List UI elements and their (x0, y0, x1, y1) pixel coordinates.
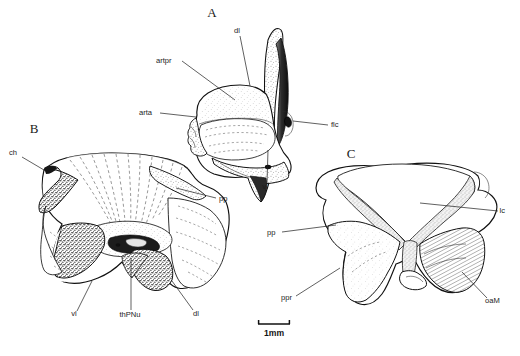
label-dl-a: dl (234, 26, 240, 35)
figure-root: A dl artpr arta flc vl (0, 0, 520, 356)
label-arta: arta (139, 108, 153, 117)
label-thpnu: thPNu (119, 310, 140, 319)
label-ch: ch (9, 148, 17, 157)
panel-letter-b: B (30, 121, 39, 136)
leader-flc (293, 121, 328, 125)
leader-vl-b (77, 281, 92, 311)
anatomical-figure-svg: A dl artpr arta flc vl (0, 0, 520, 356)
leader-ppr (296, 268, 340, 296)
leader-dl-a (240, 36, 250, 86)
label-vl-b: vl (71, 309, 77, 318)
panel-letter-a: A (207, 5, 217, 20)
panel-c-central-ridge (402, 241, 417, 276)
label-ppr: ppr (281, 293, 292, 302)
label-dl-b: dl (193, 309, 199, 318)
scale-bar-group: 1mm (258, 320, 290, 338)
label-lc: lc (500, 206, 506, 215)
label-oam: oaM (485, 296, 500, 305)
label-artpr: artpr (156, 56, 172, 65)
label-flc: flc (331, 120, 339, 129)
label-pp-c: pp (267, 228, 275, 237)
panel-c: C lc pp ppr oaM (267, 146, 505, 305)
leader-arta (160, 113, 196, 117)
label-vl-a: vl (262, 182, 268, 191)
label-pp-b: pp (219, 194, 227, 203)
panel-a-ventral-foramen (265, 165, 271, 169)
panel-a-articular-facet (199, 119, 275, 160)
panel-b-core-foramen (116, 243, 121, 247)
panel-letter-c: C (347, 146, 356, 161)
leader-ch (22, 157, 44, 170)
scale-bar-label: 1mm (264, 328, 284, 338)
